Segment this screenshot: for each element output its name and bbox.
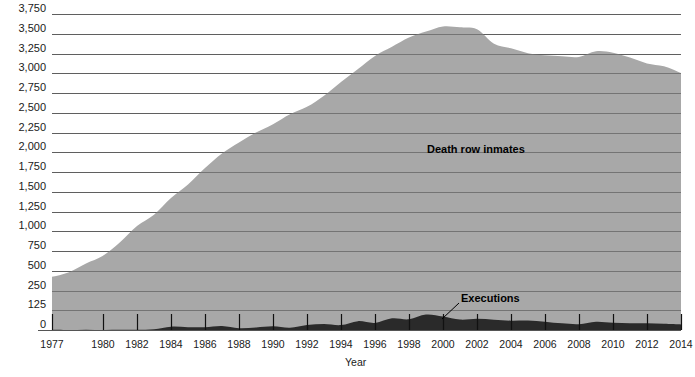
y-axis-tick-label: 2,500: [18, 101, 46, 113]
y-axis-tick-label: 500: [28, 259, 46, 271]
y-axis-tick-label: 0: [40, 318, 46, 330]
y-axis-tick-label: 2,250: [18, 121, 46, 133]
y-axis-tick-label: 3,500: [18, 22, 46, 34]
y-axis-tick-label: 2,000: [18, 140, 46, 152]
y-axis-tick-label: 2,750: [18, 81, 46, 93]
x-axis-tick-label: 1977: [30, 338, 74, 350]
series-label-death-row-inmates: Death row inmates: [427, 143, 525, 155]
y-axis-tick-label: 3,750: [18, 2, 46, 14]
x-axis-tick-label: 2014: [659, 338, 695, 350]
y-axis-tick-label: 1,000: [18, 219, 46, 231]
chart-container: 01252505007501,0001,2501,5001,7502,0002,…: [0, 0, 695, 377]
series-label-executions: Executions: [461, 292, 520, 304]
y-axis-tick-label: 1,250: [18, 200, 46, 212]
x-axis-title: Year: [345, 356, 366, 368]
y-axis-tick-label: 250: [28, 279, 46, 291]
y-axis-tick-label: 750: [28, 239, 46, 251]
y-axis-tick-label: 1,500: [18, 180, 46, 192]
area-chart-canvas: [0, 0, 695, 377]
y-axis-tick-label: 3,000: [18, 61, 46, 73]
y-axis-tick-label: 3,250: [18, 42, 46, 54]
y-axis-tick-label: 125: [28, 298, 46, 310]
y-axis-tick-label: 1,750: [18, 160, 46, 172]
